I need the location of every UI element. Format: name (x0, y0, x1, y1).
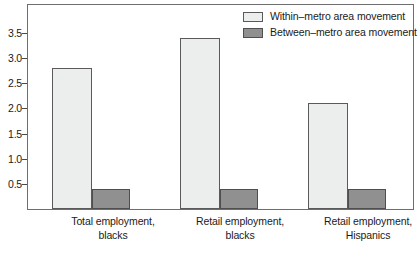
y-tick-label: 3.5 (8, 28, 22, 39)
bar-within-2 (308, 103, 348, 209)
y-tick-mark (22, 83, 27, 84)
legend-swatch-icon (243, 12, 263, 22)
legend-item-between: Between–metro area movement (243, 26, 417, 39)
legend-label: Between–metro area movement (270, 27, 417, 38)
y-tick-label: 3.0 (8, 53, 22, 64)
x-label-2: Retail employment, Hispanics (288, 215, 420, 242)
x-label-line: Hispanics (288, 229, 420, 243)
bar-between-0 (92, 189, 130, 209)
y-tick-label: 0.5 (8, 179, 22, 190)
bar-within-1 (180, 38, 220, 209)
y-tick-label: 1.5 (8, 129, 22, 140)
legend: Within–metro area movement Between–metro… (243, 10, 417, 42)
x-axis-labels: Total employment, blacks Retail employme… (27, 212, 414, 254)
legend-item-within: Within–metro area movement (243, 10, 417, 23)
y-tick-label: 2.0 (8, 103, 22, 114)
bar-between-1 (220, 189, 258, 209)
y-tick-label: 1.0 (8, 154, 22, 165)
legend-label: Within–metro area movement (270, 11, 405, 22)
y-tick-mark (22, 134, 27, 135)
y-tick-mark (22, 33, 27, 34)
legend-swatch-icon (243, 28, 263, 38)
x-label-line: Retail employment, (288, 215, 420, 229)
y-tick-label: 2.5 (8, 78, 22, 89)
bar-chart: 3.5 3.0 2.5 2.0 1.5 1.0 0.5 Total employ… (0, 0, 420, 254)
y-tick-mark (22, 159, 27, 160)
y-tick-mark (22, 108, 27, 109)
y-axis: 3.5 3.0 2.5 2.0 1.5 1.0 0.5 (0, 0, 25, 254)
bar-within-0 (52, 68, 92, 209)
y-tick-mark (22, 58, 27, 59)
bar-between-2 (348, 189, 386, 209)
y-tick-mark (22, 184, 27, 185)
